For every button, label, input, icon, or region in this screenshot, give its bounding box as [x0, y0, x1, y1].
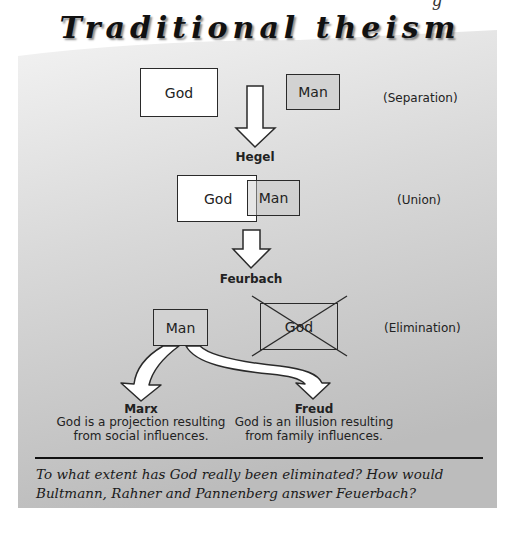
discussion-question: To what extent has God really been elimi…: [36, 465, 486, 503]
man-box-union: Man: [247, 180, 300, 216]
marx-label: Marx: [116, 402, 166, 416]
page-title: Traditional theism: [0, 10, 520, 45]
god-box-separation: God: [140, 68, 218, 117]
marx-description-line-2: from social influences.: [50, 429, 232, 443]
man-box-separation: Man: [286, 74, 340, 110]
god-box-eliminated: God: [260, 303, 338, 350]
freud-description-line-1: God is an illusion resulting: [228, 415, 400, 429]
marx-description-line-1: God is a projection resulting: [50, 415, 232, 429]
freud-description-line-2: from family influences.: [228, 429, 400, 443]
man-box-elimination: Man: [153, 309, 208, 346]
feurbach-label: Feurbach: [216, 272, 286, 286]
freud-description: God is an illusion resulting from family…: [228, 415, 400, 443]
god-box-union: God: [177, 175, 257, 222]
union-caption: (Union): [397, 193, 441, 207]
elimination-caption: (Elimination): [384, 321, 461, 335]
god-label-eliminated: God: [285, 319, 313, 335]
freud-label: Freud: [289, 402, 339, 416]
diagram-panel: [0, 0, 520, 533]
divider: [35, 457, 483, 459]
marx-description: God is a projection resulting from socia…: [50, 415, 232, 443]
separation-caption: (Separation): [383, 91, 458, 105]
hegel-label: Hegel: [225, 150, 285, 164]
